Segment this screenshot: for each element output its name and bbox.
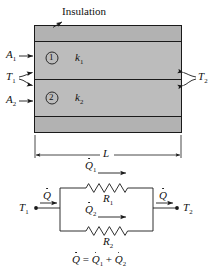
conductivity-k1-sub: 1 <box>80 58 83 65</box>
resistor-1-sub: 1 <box>110 199 113 206</box>
resistor-1-base: R <box>103 192 110 204</box>
branch-1-flow-label: Q1 <box>85 160 96 174</box>
slab-group <box>19 22 196 158</box>
conductivity-k1: k1 <box>75 52 83 66</box>
layer-marker-2: 2 <box>49 93 54 102</box>
resistor-1-label: R1 <box>103 193 113 207</box>
flow-out-base: Q <box>159 189 167 201</box>
flow-in-label: Q <box>43 190 51 201</box>
insulation-label: Insulation <box>62 6 106 17</box>
flow-out-label: Q <box>159 190 167 201</box>
branch-2-flow-label: Q2 <box>85 204 96 218</box>
label-t2-slab: T2 <box>198 71 208 85</box>
insulation-band-bottom <box>35 117 182 133</box>
heat-conduction-parallel-resistance-figure <box>0 0 212 271</box>
conductivity-k2: k2 <box>75 92 83 106</box>
label-t1-slab-sub: 1 <box>12 77 15 84</box>
t2-leader-upper <box>183 73 196 78</box>
label-a1-sub: 1 <box>13 55 16 62</box>
flow-in-base: Q <box>43 189 51 201</box>
resistor-2-label: R2 <box>103 236 113 250</box>
label-a1: A1 <box>6 49 16 63</box>
label-a1-base: A <box>6 48 13 60</box>
branch-2-flow-base: Q <box>85 203 93 215</box>
equation-term2-sub: 2 <box>123 260 126 267</box>
t1-leader-upper <box>19 73 33 78</box>
branch-2-flow-sub: 2 <box>93 210 96 217</box>
label-a2: A2 <box>6 94 16 108</box>
circuit-node-t2-label: T2 <box>183 202 193 216</box>
equation-lhs: Q <box>72 253 80 265</box>
circuit-node-t2-sub: 2 <box>189 208 192 215</box>
circuit-node-t1-label: T1 <box>19 202 29 216</box>
branch-1-flow-base: Q <box>85 159 93 171</box>
energy-balance-equation: Q = Q1 + Q2 <box>72 254 126 268</box>
equation-term1: Q <box>92 253 100 265</box>
conductivity-k2-sub: 2 <box>80 98 83 105</box>
label-t1-slab: T1 <box>6 71 16 85</box>
layer-marker-1: 1 <box>49 53 54 62</box>
t1-leader-lower <box>19 79 33 86</box>
t2-leader-lower <box>183 79 196 86</box>
circuit-node-t1-sub: 1 <box>25 208 28 215</box>
insulation-band-top <box>35 26 182 42</box>
equation-term2: Q <box>115 253 123 265</box>
label-a2-sub: 2 <box>13 100 16 107</box>
label-t2-slab-sub: 2 <box>204 77 207 84</box>
branch-1-flow-sub: 1 <box>93 166 96 173</box>
resistor-2-sub: 2 <box>110 242 113 249</box>
dimension-label-L: L <box>103 148 109 159</box>
resistor-2-base: R <box>103 235 110 247</box>
label-a2-base: A <box>6 93 13 105</box>
